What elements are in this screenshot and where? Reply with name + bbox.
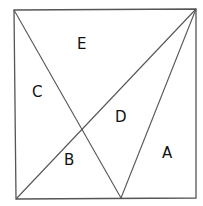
region-label-b: B xyxy=(64,151,74,169)
geometry-diagram: A B C D E xyxy=(0,0,203,206)
region-label-c: C xyxy=(32,83,42,101)
diagonal-top-left-to-bottom-mid xyxy=(14,10,121,198)
region-label-a: A xyxy=(162,144,173,162)
region-label-d: D xyxy=(115,108,127,126)
diagonal-bottom-left-to-top-right xyxy=(16,9,196,199)
line-bottom-mid-to-top-right xyxy=(121,9,196,198)
region-label-e: E xyxy=(77,35,86,53)
